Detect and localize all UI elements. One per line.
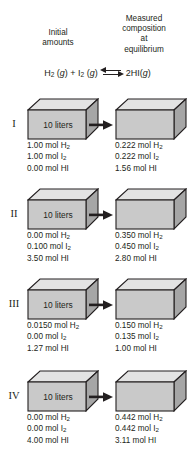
equilibrium-vessel	[115, 370, 187, 412]
amount-line: 1.27 mol HI	[27, 344, 79, 354]
amount-line: 0.150 mol H2	[115, 321, 163, 332]
column-headers: Initialamounts Measuredcompositionatequi…	[0, 14, 195, 60]
equilibrium-vessel	[115, 278, 187, 320]
experiment-row: I10 liters1.00 mol H21.00 mol I20.00 mol…	[0, 92, 195, 180]
amount-line: 0.00 mol I2	[27, 332, 79, 343]
reaction-vessel-icon	[115, 278, 187, 320]
right-arrow-icon	[89, 392, 113, 402]
initial-amounts-list: 0.00 mol H20.100 mol I23.50 mol HI	[27, 231, 71, 263]
initial-amounts-list: 0.0150 mol H20.00 mol I21.27 mol HI	[27, 321, 79, 353]
amount-line: 1.56 mol HI	[115, 164, 163, 174]
initial-amounts-list: 1.00 mol H21.00 mol I20.00 mol HI	[27, 141, 70, 173]
equilibrium-amounts-list: 0.150 mol H20.135 mol I21.00 mol HI	[115, 321, 163, 353]
amount-line: 0.222 mol H2	[115, 141, 163, 152]
initial-amounts-list: 0.00 mol H20.00 mol I24.00 mol HI	[27, 413, 70, 445]
amount-line: 3.11 mol HI	[115, 436, 163, 446]
reaction-vessel-icon	[115, 188, 187, 230]
amount-line: 0.442 mol I2	[115, 424, 163, 435]
right-arrow-icon	[89, 300, 113, 310]
amount-line: 0.00 mol HI	[27, 164, 70, 174]
chemical-equation: H2 (g) + I2 (g) 2HI(g)	[0, 64, 195, 82]
amount-line: 0.00 mol H2	[27, 231, 71, 242]
reaction-arrow	[89, 206, 113, 216]
right-arrow-icon	[89, 210, 113, 220]
experiment-row: II10 liters0.00 mol H20.100 mol I23.50 m…	[0, 182, 195, 270]
amount-line: 0.222 mol I2	[115, 152, 163, 163]
amount-line: 0.0150 mol H2	[27, 321, 79, 332]
equation-reactants: H2 (g) + I2 (g)	[44, 68, 98, 78]
equilibrium-amounts-list: 0.350 mol H20.450 mol I22.80 mol HI	[115, 231, 163, 263]
amount-line: 0.350 mol H2	[115, 231, 163, 242]
experiment-row: III10 liters0.0150 mol H20.00 mol I21.27…	[0, 272, 195, 360]
header-initial-amounts: Initialamounts	[22, 28, 94, 48]
experiment-row: IV10 liters0.00 mol H20.00 mol I24.00 mo…	[0, 364, 195, 452]
amount-line: 1.00 mol I2	[27, 152, 70, 163]
row-label-iv: IV	[4, 390, 24, 401]
header-measured-composition: Measuredcompositionatequilibrium	[104, 14, 184, 55]
reaction-arrow	[89, 116, 113, 126]
amount-line: 3.50 mol HI	[27, 254, 71, 264]
row-label-ii: II	[4, 208, 24, 219]
amount-line: 4.00 mol HI	[27, 436, 70, 446]
right-arrow-icon	[89, 120, 113, 130]
equation-products: 2HI(g)	[126, 68, 151, 78]
amount-line: 2.80 mol HI	[115, 254, 163, 264]
equilibrium-vessel	[115, 98, 187, 140]
reaction-vessel-icon	[115, 370, 187, 412]
equilibrium-double-arrow-icon	[101, 68, 123, 79]
row-label-iii: III	[4, 298, 24, 309]
amount-line: 0.100 mol I2	[27, 242, 71, 253]
equilibrium-amounts-list: 0.222 mol H20.222 mol I21.56 mol HI	[115, 141, 163, 173]
equilibrium-amounts-list: 0.442 mol H20.442 mol I23.11 mol HI	[115, 413, 163, 445]
row-label-i: I	[4, 118, 24, 129]
reaction-arrow	[89, 296, 113, 306]
amount-line: 0.00 mol H2	[27, 413, 70, 424]
reaction-vessel-icon	[115, 98, 187, 140]
amount-line: 0.442 mol H2	[115, 413, 163, 424]
amount-line: 0.450 mol I2	[115, 242, 163, 253]
equilibrium-vessel	[115, 188, 187, 230]
amount-line: 1.00 mol HI	[115, 344, 163, 354]
reaction-arrow	[89, 388, 113, 398]
amount-line: 0.135 mol I2	[115, 332, 163, 343]
amount-line: 0.00 mol I2	[27, 424, 70, 435]
amount-line: 1.00 mol H2	[27, 141, 70, 152]
